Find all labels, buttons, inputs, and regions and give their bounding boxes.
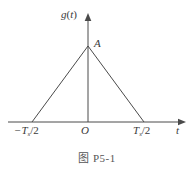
- y-axis-label-paren-close: ): [73, 8, 77, 20]
- y-axis-arrow-icon: [85, 13, 92, 21]
- figure-caption: 图 P5-1: [0, 149, 194, 165]
- figure-container: g(t) A O −Ts/2 Ts/2 t 图 P5-1: [0, 0, 194, 175]
- right-zero-crossing-label: Ts/2: [133, 125, 150, 138]
- x-axis-label: t: [176, 125, 179, 136]
- peak-amplitude-label: A: [94, 38, 101, 49]
- left-zero-crossing-label: −Ts/2: [14, 125, 39, 138]
- right-zero-label-suffix: /2: [142, 124, 151, 136]
- left-zero-label-prefix: −T: [14, 124, 28, 136]
- y-axis-label: g(t): [61, 9, 77, 20]
- origin-label: O: [81, 125, 89, 136]
- left-zero-label-suffix: /2: [30, 124, 39, 136]
- x-axis-arrow-icon: [178, 119, 186, 126]
